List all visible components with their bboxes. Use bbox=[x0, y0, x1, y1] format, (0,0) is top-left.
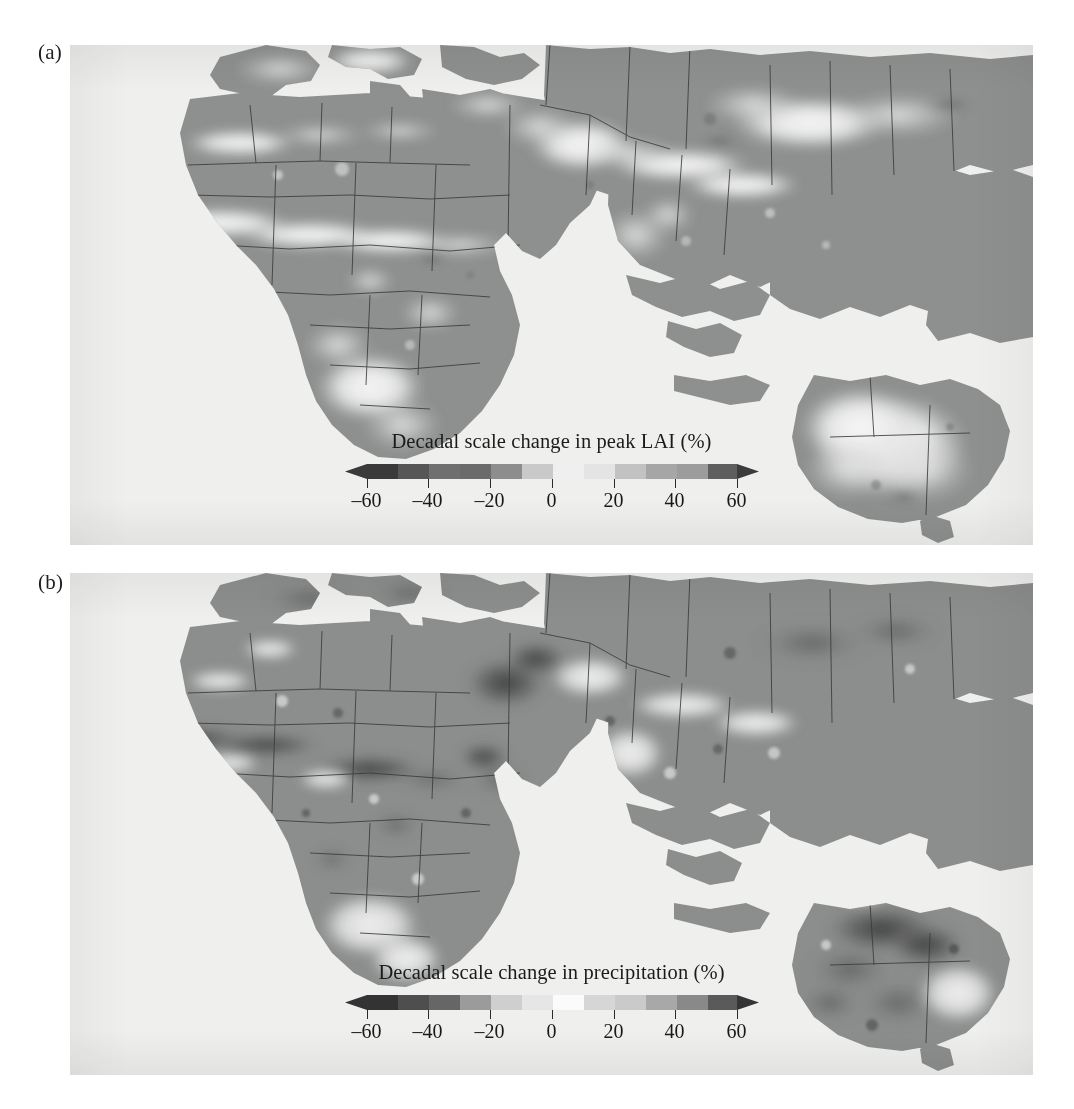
tick-label: 60 bbox=[727, 1020, 747, 1043]
panel-label-b: (b) bbox=[38, 570, 63, 595]
tick-mark bbox=[552, 1010, 553, 1019]
tick-label: –20 bbox=[475, 489, 505, 512]
colorbar-title-b: Decadal scale change in precipitation (%… bbox=[70, 961, 1033, 984]
tick-label: 40 bbox=[665, 489, 685, 512]
tick-label: 0 bbox=[547, 1020, 557, 1043]
tick-mark bbox=[614, 1010, 615, 1019]
colorbar-block-a: Decadal scale change in peak LAI (%) bbox=[70, 430, 1033, 515]
map-panel-a: Decadal scale change in peak LAI (%) bbox=[70, 45, 1033, 545]
colorbar-title-a: Decadal scale change in peak LAI (%) bbox=[70, 430, 1033, 453]
colorbar-b bbox=[345, 995, 759, 1010]
tick-mark bbox=[490, 479, 491, 488]
tick-label: 60 bbox=[727, 489, 747, 512]
tick-mark bbox=[428, 1010, 429, 1019]
tick-label: –40 bbox=[413, 489, 443, 512]
tick-mark bbox=[614, 479, 615, 488]
tick-label: –40 bbox=[413, 1020, 443, 1043]
tick-label: 40 bbox=[665, 1020, 685, 1043]
tick-mark bbox=[737, 1010, 738, 1019]
colorbar-ticks-a bbox=[345, 479, 759, 488]
tick-mark bbox=[428, 479, 429, 488]
tick-mark bbox=[367, 479, 368, 488]
tick-label: 20 bbox=[604, 1020, 624, 1043]
map-canvas-b: Decadal scale change in precipitation (%… bbox=[70, 573, 1033, 1075]
colorbar-a bbox=[345, 464, 759, 479]
map-canvas-a: Decadal scale change in peak LAI (%) bbox=[70, 45, 1033, 545]
tick-mark bbox=[675, 1010, 676, 1019]
colorbar-tick-labels-b: –60 –40 –20 0 20 40 60 bbox=[345, 1020, 759, 1046]
tick-mark bbox=[490, 1010, 491, 1019]
figure-root: (a) bbox=[0, 0, 1074, 1109]
panel-label-a: (a) bbox=[38, 40, 62, 65]
tick-mark bbox=[367, 1010, 368, 1019]
tick-mark bbox=[552, 479, 553, 488]
tick-label: –60 bbox=[352, 489, 382, 512]
tick-label: –60 bbox=[352, 1020, 382, 1043]
map-panel-b: Decadal scale change in precipitation (%… bbox=[70, 573, 1033, 1075]
tick-mark bbox=[737, 479, 738, 488]
tick-label: 0 bbox=[547, 489, 557, 512]
colorbar-tick-labels-a: –60 –40 –20 0 20 40 60 bbox=[345, 489, 759, 515]
colorbar-ticks-b bbox=[345, 1010, 759, 1019]
tick-label: –20 bbox=[475, 1020, 505, 1043]
colorbar-block-b: Decadal scale change in precipitation (%… bbox=[70, 961, 1033, 1046]
tick-label: 20 bbox=[604, 489, 624, 512]
tick-mark bbox=[675, 479, 676, 488]
